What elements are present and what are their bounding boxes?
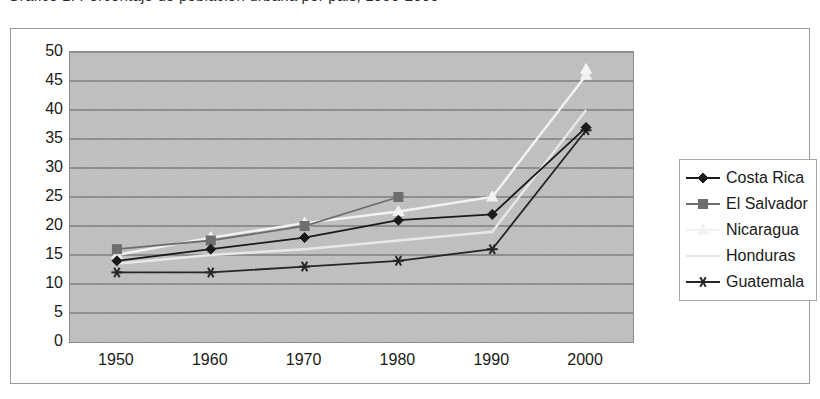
x-tick-1990: 1990 xyxy=(473,351,509,369)
series-honduras xyxy=(117,110,586,264)
marker-diamond xyxy=(698,173,708,183)
y-tick-10: 10 xyxy=(17,274,63,292)
chart-legend: Costa RicaEl SalvadorNicaraguaHondurasGu… xyxy=(679,159,817,301)
marker-diamond xyxy=(300,233,310,243)
marker-diamond xyxy=(206,244,216,254)
x-tick-1970: 1970 xyxy=(286,351,322,369)
marker-star xyxy=(393,256,404,266)
legend-item-nicaragua[interactable]: Nicaragua xyxy=(684,217,808,243)
x-tick-1950: 1950 xyxy=(98,351,134,369)
legend-label: Costa Rica xyxy=(722,169,804,187)
x-tick-1960: 1960 xyxy=(192,351,228,369)
marker-square xyxy=(699,200,708,209)
y-tick-5: 5 xyxy=(17,303,63,321)
figure-caption-strip: Grafico 1. Porcentaje de poblacion urban… xyxy=(0,0,820,16)
plot-area xyxy=(69,51,634,343)
legend-item-costa-rica[interactable]: Costa Rica xyxy=(684,165,808,191)
line-diamond-marker-icon xyxy=(684,170,722,186)
marker-star xyxy=(111,268,122,278)
marker-diamond xyxy=(393,215,403,225)
marker-triangle xyxy=(581,63,592,73)
y-tick-45: 45 xyxy=(17,71,63,89)
line-square-marker-icon xyxy=(684,196,722,212)
marker-square xyxy=(112,245,121,254)
x-axis-tick-labels: 195019601970198019902000 xyxy=(69,351,634,375)
chart-frame: 50454035302520151050 1950196019701980199… xyxy=(10,28,810,384)
y-tick-20: 20 xyxy=(17,216,63,234)
legend-item-honduras[interactable]: Honduras xyxy=(684,243,808,269)
line-star-marker-icon xyxy=(684,274,722,290)
y-tick-35: 35 xyxy=(17,129,63,147)
series-line-el-salvador xyxy=(117,197,399,249)
y-tick-25: 25 xyxy=(17,187,63,205)
y-tick-0: 0 xyxy=(17,332,63,350)
x-tick-2000: 2000 xyxy=(567,351,603,369)
x-tick-1980: 1980 xyxy=(380,351,416,369)
marker-star xyxy=(299,262,310,272)
y-axis-tick-labels: 50454035302520151050 xyxy=(11,51,63,343)
y-tick-30: 30 xyxy=(17,158,63,176)
y-tick-15: 15 xyxy=(17,245,63,263)
series-line-honduras xyxy=(117,110,586,264)
marker-star xyxy=(205,268,216,278)
legend-item-guatemala[interactable]: Guatemala xyxy=(684,269,808,295)
legend-label: Nicaragua xyxy=(722,221,799,239)
extra-point-guatemala-2000-star xyxy=(581,63,592,73)
y-tick-50: 50 xyxy=(17,42,63,60)
y-tick-40: 40 xyxy=(17,100,63,118)
legend-label: Honduras xyxy=(722,247,795,265)
marker-star xyxy=(487,244,498,254)
legend-label: El Salvador xyxy=(722,195,808,213)
series-guatemala xyxy=(111,126,591,278)
marker-square xyxy=(394,193,403,202)
line-faint-plain-icon xyxy=(684,248,722,264)
figure-caption-text: Grafico 1. Porcentaje de poblacion urban… xyxy=(8,0,439,4)
legend-item-el-salvador[interactable]: El Salvador xyxy=(684,191,808,217)
marker-star xyxy=(698,277,709,287)
chart-series-canvas xyxy=(70,52,633,342)
series-nicaragua xyxy=(111,69,591,259)
marker-square xyxy=(300,222,309,231)
line-faint-marker-icon xyxy=(684,222,722,238)
legend-label: Guatemala xyxy=(722,273,804,291)
